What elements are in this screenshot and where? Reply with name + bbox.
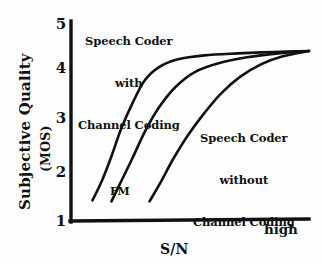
annotation-fm: FM bbox=[110, 186, 129, 198]
annotation-with-channel-coding: Speech Coder with Channel Coding bbox=[78, 6, 180, 160]
chart-figure: 5 4 3 2 1 Subjective Quality (MOS) Speec… bbox=[0, 0, 322, 264]
annotation-without-line-2: without bbox=[193, 173, 295, 187]
y-tick-label-5: 5 bbox=[52, 16, 66, 33]
x-axis-end-label: high bbox=[264, 222, 298, 237]
x-axis-title: S/N bbox=[160, 242, 189, 258]
annotation-with-line-3: Channel Coding bbox=[78, 118, 180, 132]
annotation-with-line-1: Speech Coder bbox=[78, 34, 180, 48]
y-axis-title: Subjective Quality bbox=[16, 53, 34, 210]
y-tick-label-2: 2 bbox=[52, 164, 66, 181]
annotation-with-line-2: with bbox=[78, 76, 180, 90]
y-axis-unit-label: (MOS) bbox=[38, 125, 53, 172]
y-tick-label-3: 3 bbox=[52, 110, 66, 127]
y-tick-label-4: 4 bbox=[52, 60, 66, 77]
y-tick-label-1: 1 bbox=[52, 213, 66, 230]
annotation-without-line-1: Speech Coder bbox=[193, 131, 295, 145]
